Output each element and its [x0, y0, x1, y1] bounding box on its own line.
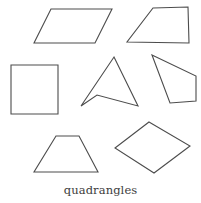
shape-trapezoid-top-right — [127, 7, 189, 43]
shape-dart-middle-center — [81, 57, 138, 106]
figure-caption: quadrangles — [0, 183, 201, 197]
shapes-canvas — [0, 0, 201, 203]
shape-square-middle-left — [11, 65, 58, 114]
shape-rhombus-bottom-right — [115, 122, 190, 173]
quadrangles-figure: quadrangles — [0, 0, 201, 203]
shape-parallelogram-top-left — [34, 9, 112, 43]
shape-irregular-quad-middle-right — [152, 55, 196, 103]
shape-trapezoid-bottom-left — [34, 136, 98, 172]
